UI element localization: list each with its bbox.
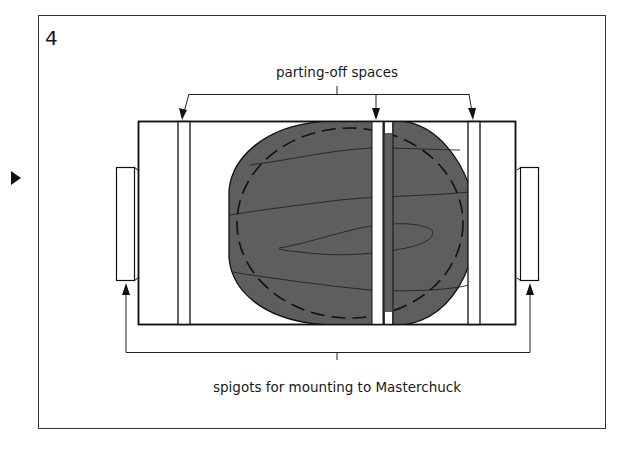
parting-strip-center-inner [384,122,393,325]
diagram-canvas: 4 parting-off spaces [0,0,639,464]
arrowhead-down-icon [179,108,187,120]
arrowhead-down-icon [372,108,380,120]
parting-off-label: parting-off spaces [276,64,398,80]
arrowhead-up-icon [526,283,534,295]
triangle-right-icon [11,171,21,185]
parting-gap-bottom [385,312,392,324]
parting-strip-left [178,122,190,325]
nut-shape [229,121,469,325]
figure-number: 4 [45,26,58,50]
parting-off-bracket [184,86,472,112]
parting-strip-center [372,122,383,325]
arrowhead-down-icon [468,108,476,120]
spigots-label: spigots for mounting to Masterchuck [213,379,461,395]
parting-strip-right [468,122,480,325]
parting-gap-top [385,122,392,133]
spigot-right [517,168,539,281]
spigot-left [117,168,139,281]
arrowhead-up-icon [122,283,130,295]
